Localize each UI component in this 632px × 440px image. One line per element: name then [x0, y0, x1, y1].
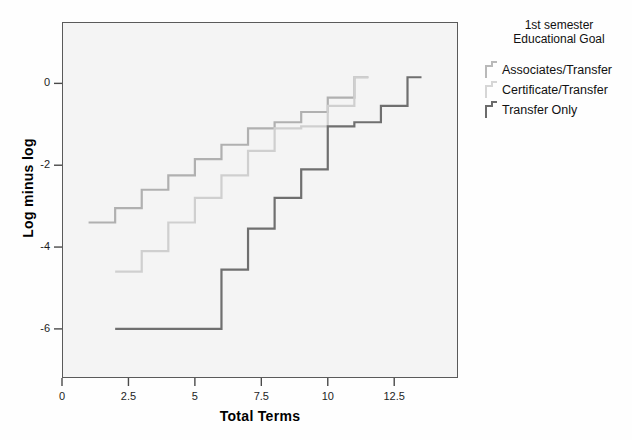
y-tick-label: -6 — [24, 322, 50, 334]
y-axis-title: Log minus log — [20, 88, 36, 288]
figure-canvas: 02.557.51012.5 0-2-4-6 Total Terms Log m… — [0, 0, 632, 440]
x-tick-label: 5 — [175, 390, 215, 402]
x-tick-label: 10 — [308, 390, 348, 402]
legend-title: 1st semester Educational Goal — [488, 18, 630, 46]
legend: 1st semester Educational Goal Associates… — [488, 18, 630, 120]
x-tick-label: 0 — [42, 390, 82, 402]
legend-swatch-icon — [484, 81, 498, 99]
x-tick-label: 2.5 — [108, 390, 148, 402]
legend-swatch-icon — [484, 61, 498, 79]
legend-item-label: Transfer Only — [502, 103, 577, 117]
legend-item-1[interactable]: Certificate/Transfer — [484, 80, 630, 100]
legend-item-0[interactable]: Associates/Transfer — [484, 60, 630, 80]
legend-item-label: Associates/Transfer — [502, 63, 612, 77]
x-tick-label: 12.5 — [374, 390, 414, 402]
legend-item-label: Certificate/Transfer — [502, 83, 608, 97]
legend-entries: Associates/TransferCertificate/TransferT… — [488, 60, 630, 120]
x-axis-title: Total Terms — [0, 408, 520, 424]
y-tick-label: 0 — [24, 76, 50, 88]
x-tick-label: 7.5 — [241, 390, 281, 402]
legend-item-2[interactable]: Transfer Only — [484, 100, 630, 120]
legend-swatch-icon — [484, 101, 498, 119]
plot-area — [62, 22, 458, 378]
